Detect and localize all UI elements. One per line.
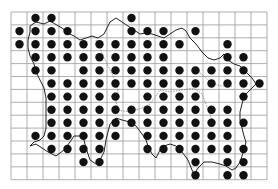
occurrence-dot — [159, 40, 167, 48]
occurrence-dot — [239, 171, 247, 179]
occurrence-dot — [127, 66, 135, 74]
occurrence-dot — [111, 132, 119, 140]
occurrence-dot — [95, 53, 103, 61]
occurrence-dot — [127, 79, 135, 87]
occurrence-dot — [31, 40, 39, 48]
occurrence-dot — [63, 92, 71, 100]
occurrence-dot — [63, 40, 71, 48]
occurrence-dot — [47, 132, 55, 140]
occurrence-dot — [223, 132, 231, 140]
occurrence-dot — [239, 119, 247, 127]
occurrence-dot — [79, 132, 87, 140]
occurrence-dot — [175, 132, 183, 140]
occurrence-dot — [223, 145, 231, 153]
occurrence-dot — [239, 92, 247, 100]
occurrence-dot — [111, 119, 119, 127]
occurrence-dot — [95, 106, 103, 114]
occurrence-dot — [191, 27, 199, 35]
occurrence-dot — [95, 158, 103, 166]
occurrence-dot — [175, 92, 183, 100]
occurrence-dot — [127, 119, 135, 127]
occurrence-dot — [95, 79, 103, 87]
occurrence-dot — [111, 53, 119, 61]
occurrence-dot — [223, 106, 231, 114]
occurrence-dot — [79, 40, 87, 48]
occurrence-dot — [15, 40, 23, 48]
occurrence-dot — [191, 92, 199, 100]
occurrence-dot — [175, 66, 183, 74]
occurrence-dot — [159, 106, 167, 114]
occurrence-dot — [79, 79, 87, 87]
occurrence-dot — [159, 79, 167, 87]
occurrence-dot — [63, 79, 71, 87]
occurrence-dot — [175, 79, 183, 87]
occurrence-dot — [47, 92, 55, 100]
occurrence-dot — [223, 158, 231, 166]
occurrence-dot — [47, 53, 55, 61]
occurrence-dot — [175, 119, 183, 127]
occurrence-dot — [159, 66, 167, 74]
occurrence-dot — [95, 66, 103, 74]
occurrence-dot — [47, 106, 55, 114]
occurrence-dot — [95, 92, 103, 100]
occurrence-dot — [47, 27, 55, 35]
coastline-outline — [28, 18, 256, 174]
occurrence-dot — [159, 27, 167, 35]
occurrence-dot — [95, 145, 103, 153]
occurrence-dot — [159, 132, 167, 140]
occurrence-dot — [207, 132, 215, 140]
occurrence-dot — [79, 158, 87, 166]
occurrence-dot — [191, 119, 199, 127]
occurrence-dot — [191, 158, 199, 166]
occurrence-dot — [159, 119, 167, 127]
occurrence-dot — [239, 66, 247, 74]
occurrence-dot — [111, 66, 119, 74]
occurrence-dot — [31, 27, 39, 35]
occurrence-dot — [143, 40, 151, 48]
occurrence-dot — [15, 27, 23, 35]
occurrence-dot — [127, 14, 135, 22]
map-canvas — [0, 0, 278, 189]
occurrence-dot — [207, 106, 215, 114]
occurrence-dot — [79, 106, 87, 114]
occurrence-dot — [191, 79, 199, 87]
occurrence-dot — [79, 92, 87, 100]
occurrence-dot — [223, 53, 231, 61]
occurrence-dot — [191, 66, 199, 74]
occurrence-dot — [79, 66, 87, 74]
occurrence-dot — [95, 132, 103, 140]
occurrence-dot — [111, 106, 119, 114]
occurrence-dot — [223, 119, 231, 127]
occurrence-dot — [207, 119, 215, 127]
occurrence-dot — [239, 145, 247, 153]
occurrence-dot — [175, 145, 183, 153]
occurrence-dot — [207, 145, 215, 153]
occurrence-dot — [63, 106, 71, 114]
occurrence-dot — [191, 145, 199, 153]
occurrence-dot — [63, 145, 71, 153]
occurrence-dot — [143, 106, 151, 114]
occurrence-dot — [175, 106, 183, 114]
occurrence-dot — [47, 66, 55, 74]
occurrence-dot — [143, 79, 151, 87]
occurrence-dot — [63, 132, 71, 140]
occurrence-dot — [223, 40, 231, 48]
occurrence-dot — [143, 53, 151, 61]
occurrence-dot — [207, 66, 215, 74]
distribution-map — [0, 0, 278, 189]
occurrence-dot — [111, 40, 119, 48]
occurrence-dot — [223, 79, 231, 87]
occurrence-dot — [127, 53, 135, 61]
occurrence-dot — [31, 14, 39, 22]
occurrence-dot — [79, 145, 87, 153]
occurrence-dot — [47, 40, 55, 48]
occurrence-dot — [255, 79, 263, 87]
occurrence-dot — [143, 92, 151, 100]
occurrence-dot — [95, 40, 103, 48]
occurrence-dot — [143, 66, 151, 74]
occurrence-dot — [223, 66, 231, 74]
occurrence-dot — [31, 53, 39, 61]
occurrence-dot — [175, 40, 183, 48]
occurrence-dot — [223, 171, 231, 179]
occurrence-dot — [111, 92, 119, 100]
